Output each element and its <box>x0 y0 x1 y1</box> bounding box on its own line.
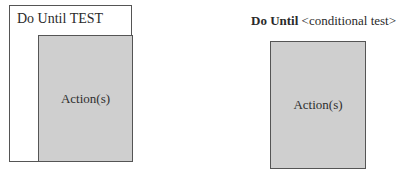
actions-box-left: Action(s) <box>38 35 133 162</box>
loop-title: Do Until TEST <box>17 11 103 27</box>
conditional-test-text: <conditional test> <box>298 13 396 28</box>
actions-box-right: Action(s) <box>270 41 366 169</box>
actions-label-right: Action(s) <box>271 97 365 113</box>
actions-label-left: Action(s) <box>39 91 132 107</box>
pseudocode-header: Do Until <conditional test> <box>251 13 396 29</box>
do-until-keyword: Do Until <box>251 13 298 28</box>
